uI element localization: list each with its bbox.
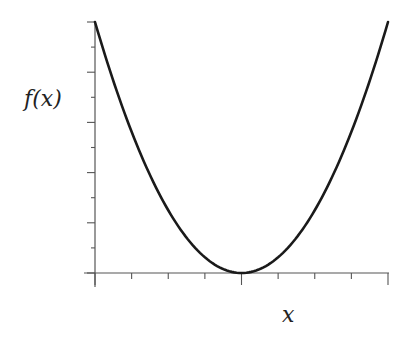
function-curve xyxy=(95,22,388,273)
y-axis-ticks xyxy=(87,22,95,273)
x-axis-ticks xyxy=(95,273,388,285)
y-axis-label: f(x) xyxy=(22,86,62,111)
parabola-chart: f(x) x xyxy=(0,0,416,351)
x-axis-label: x xyxy=(282,302,295,327)
